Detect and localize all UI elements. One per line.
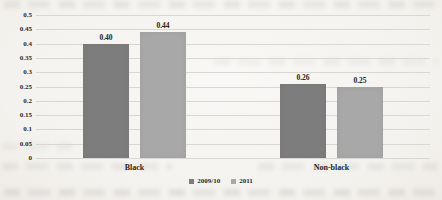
bar-value-label: 0.44	[156, 21, 169, 30]
legend-label: 2011	[239, 177, 253, 185]
gridline	[36, 158, 430, 159]
y-axis-tick-label: 0.45	[4, 26, 32, 33]
bar-2009-10-black	[83, 44, 129, 158]
bar-value-label: 0.40	[99, 33, 112, 42]
y-axis-tick-label: 0.15	[4, 112, 32, 119]
legend-item: 2009/10	[189, 177, 220, 185]
y-axis-tick-label: 0.5	[4, 12, 32, 19]
legend-color-swatch	[189, 179, 194, 184]
x-axis-category-label: Black	[125, 163, 145, 172]
chart-legend: 2009/102011	[0, 177, 442, 185]
y-axis-tick-label: 0	[4, 155, 32, 162]
bar-value-label: 0.25	[353, 76, 366, 85]
y-axis-tick-label: 0.4	[4, 40, 32, 47]
bar-2011-black	[140, 32, 186, 158]
y-axis-tick-label: 0.1	[4, 126, 32, 133]
y-axis-tick-label: 0.3	[4, 69, 32, 76]
bar-2011-non-black	[337, 87, 383, 159]
gridline	[36, 15, 430, 16]
y-axis-tick-label: 0.05	[4, 140, 32, 147]
legend-color-swatch	[231, 179, 236, 184]
gridline	[36, 29, 430, 30]
y-axis-tick-label: 0.25	[4, 83, 32, 90]
y-axis-tick-label: 0.2	[4, 97, 32, 104]
plot-area: 00.050.10.150.20.250.30.350.40.450.50.40…	[0, 0, 442, 200]
y-axis-tick-label: 0.35	[4, 54, 32, 61]
legend-item: 2011	[231, 177, 253, 185]
bar-value-label: 0.26	[296, 73, 309, 82]
legend-label: 2009/10	[197, 177, 220, 185]
bar-2009-10-non-black	[280, 84, 326, 158]
scanned-document-page: 00.050.10.150.20.250.30.350.40.450.50.40…	[0, 0, 442, 200]
bar-chart: 00.050.10.150.20.250.30.350.40.450.50.40…	[0, 0, 442, 200]
x-axis-category-label: Non-black	[314, 163, 350, 172]
